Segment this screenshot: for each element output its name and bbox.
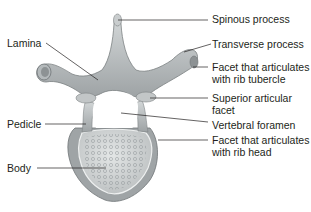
label-facet-rib-head-2: with rib head	[212, 146, 272, 158]
label-spinous-process: Spinous process	[212, 13, 290, 25]
vertebra-diagram	[0, 0, 311, 212]
label-transverse-process: Transverse process	[212, 38, 304, 50]
label-body: Body	[7, 162, 31, 174]
label-pedicle: Pedicle	[7, 118, 41, 130]
vertebral-foramen-space	[93, 92, 138, 129]
label-facet-rib-tubercle-2: with rib tubercle	[212, 73, 286, 85]
label-lamina: Lamina	[7, 37, 41, 49]
left-superior-articular-facet	[76, 93, 96, 103]
label-superior-articular-facet-2: facet	[212, 104, 235, 116]
right-superior-articular-facet	[136, 92, 156, 102]
label-facet-rib-head-1: Facet that articulates	[212, 134, 309, 146]
right-transverse-facet	[190, 56, 198, 68]
label-superior-articular-facet-1: Superior articular	[212, 92, 292, 104]
leader-transverse-process	[184, 44, 211, 52]
label-facet-rib-tubercle-1: Facet that articulates	[212, 61, 309, 73]
vertebral-arch	[37, 17, 198, 97]
label-vertebral-foramen: Vertebral foramen	[212, 119, 295, 131]
